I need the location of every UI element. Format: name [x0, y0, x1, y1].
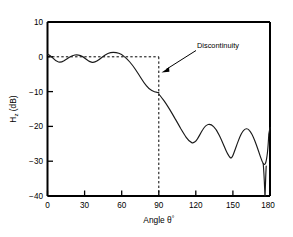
y-tick-label-3: −20 [29, 122, 43, 131]
x-tick-label-2: 60 [117, 201, 127, 210]
x-axis-title-word: Angle [143, 215, 165, 225]
y-axis-title-unit: (dB) [8, 95, 18, 111]
y-tick-label-1: 0 [38, 53, 43, 62]
chart-svg: 10 0 −10 −20 −30 −40 0 30 60 90 120 150 … [0, 0, 293, 237]
x-axis-title-degree: ° [172, 215, 175, 222]
curve-right-segment [159, 94, 270, 165]
curve-left-segment [48, 52, 159, 92]
discontinuity-arrow-line [166, 51, 196, 70]
x-tick-label-4: 120 [189, 201, 203, 210]
x-tick-label-0: 0 [45, 201, 50, 210]
svg-text:Angle θ°: Angle θ° [143, 215, 174, 226]
curve-deep-null [263, 164, 266, 197]
x-tick-label-6: 180 [261, 201, 275, 210]
discontinuity-label: Discontinuity [197, 41, 239, 50]
discontinuity-arrow-head [162, 67, 170, 72]
x-tick-label-3: 90 [154, 201, 164, 210]
y-tick-label-2: −10 [29, 88, 43, 97]
svg-text:Hz (dB): Hz (dB) [8, 95, 19, 123]
x-tick-label-5: 150 [226, 201, 240, 210]
y-tick-label-0: 10 [34, 18, 44, 27]
x-tick-label-1: 30 [80, 201, 90, 210]
y-axis-title: Hz (dB) [8, 95, 19, 123]
y-tick-label-5: −40 [29, 192, 43, 201]
y-tick-label-4: −30 [29, 157, 43, 166]
x-axis-title: Angle θ° [143, 215, 174, 226]
figure-container: 10 0 −10 −20 −30 −40 0 30 60 90 120 150 … [0, 0, 293, 237]
